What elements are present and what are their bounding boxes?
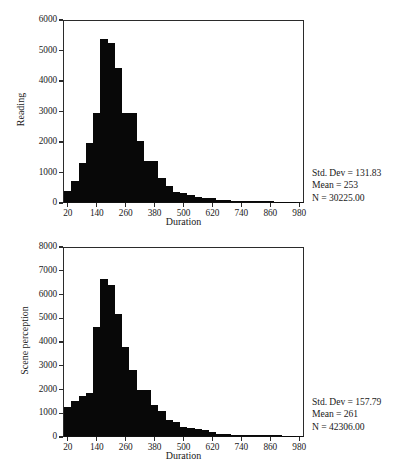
- histogram-bar: [144, 390, 151, 436]
- histogram-bar: [71, 401, 78, 436]
- histogram-bar: [129, 113, 136, 202]
- y-tick-label: 4000: [39, 74, 57, 87]
- histogram-bar: [267, 435, 274, 436]
- x-axis-title-scene: Duration: [63, 450, 304, 461]
- histogram-bar: [224, 200, 231, 202]
- histogram-bar: [64, 407, 71, 436]
- histogram-bar: [202, 430, 209, 436]
- y-tick-label: 5000: [39, 44, 57, 57]
- y-tick-label: 1000: [39, 166, 57, 179]
- histogram-bar: [151, 405, 158, 436]
- histogram-bar: [137, 141, 144, 202]
- statistics-annotation-reading: Std. Dev = 131.83 Mean = 253 N = 30225.0…: [312, 167, 381, 204]
- y-axis-ticks-scene: 010002000300040005000600070008000: [0, 247, 63, 437]
- histogram-bar: [108, 285, 115, 436]
- bar-series-reading: [64, 21, 303, 202]
- histogram-bar: [129, 370, 136, 436]
- histogram-bar: [238, 435, 245, 436]
- y-tick-label: 1000: [39, 406, 57, 419]
- histogram-bar: [216, 200, 223, 202]
- statistics-annotation-scene: Std. Dev = 157.79 Mean = 261 N = 42306.0…: [312, 396, 381, 433]
- histogram-bar: [144, 161, 151, 202]
- histogram-bar: [79, 396, 86, 436]
- histogram-bar: [151, 161, 158, 202]
- histogram-bar: [173, 192, 180, 202]
- histogram-bar: [224, 434, 231, 436]
- histogram-bar: [64, 191, 71, 202]
- mean-text: Mean = 253: [312, 179, 381, 191]
- y-tick-label: 7000: [39, 264, 57, 277]
- sample-size-text: N = 42306.00: [312, 421, 381, 433]
- histogram-bar: [173, 422, 180, 436]
- std-dev-text: Std. Dev = 131.83: [312, 167, 381, 179]
- histogram-bar: [238, 201, 245, 202]
- mean-text: Mean = 261: [312, 408, 381, 420]
- histogram-bar: [93, 327, 100, 436]
- histogram-bar: [253, 201, 260, 202]
- y-tick-label: 8000: [39, 240, 57, 253]
- histogram-bar: [195, 429, 202, 436]
- histogram-bar: [166, 420, 173, 436]
- histogram-bar: [86, 393, 93, 436]
- histogram-bar: [245, 435, 252, 436]
- histogram-bar: [93, 113, 100, 202]
- y-tick-label: 5000: [39, 311, 57, 324]
- histogram-bar: [115, 314, 122, 436]
- histogram-bar: [86, 143, 93, 202]
- histogram-bar: [231, 201, 238, 203]
- y-axis-ticks-reading: 0100020003000400050006000: [0, 20, 63, 203]
- y-tick-label: 3000: [39, 105, 57, 118]
- histogram-bar: [209, 198, 216, 202]
- histogram-bar: [231, 435, 238, 436]
- histogram-bar: [71, 181, 78, 202]
- histogram-figure-reading: Reading 0100020003000400050006000 201402…: [0, 0, 416, 233]
- y-tick-label: 6000: [39, 13, 57, 26]
- histogram-bar: [195, 197, 202, 202]
- histogram-bar: [115, 68, 122, 202]
- histogram-bar: [216, 434, 223, 436]
- histogram-bar: [137, 390, 144, 436]
- y-tick-label: 0: [52, 430, 57, 443]
- histogram-bar: [274, 435, 281, 436]
- histogram-bar: [166, 186, 173, 202]
- histogram-bar: [180, 193, 187, 202]
- plot-area-scene: [63, 247, 304, 437]
- histogram-bar: [260, 201, 267, 202]
- y-tick-label: 3000: [39, 359, 57, 372]
- histogram-bar: [100, 39, 107, 203]
- sample-size-text: N = 30225.00: [312, 192, 381, 204]
- plot-area-reading: [63, 20, 304, 203]
- histogram-bar: [267, 201, 274, 202]
- histogram-bar: [245, 201, 252, 202]
- histogram-bar: [79, 163, 86, 202]
- bar-series-scene: [64, 248, 303, 436]
- y-tick-label: 2000: [39, 383, 57, 396]
- y-tick-label: 6000: [39, 288, 57, 301]
- histogram-bar: [158, 178, 165, 202]
- histogram-bar: [187, 195, 194, 202]
- histogram-bar: [260, 435, 267, 436]
- histogram-bar: [100, 279, 107, 436]
- histogram-bar: [187, 428, 194, 436]
- histogram-figure-scene-perception: Scene perception 01000200030004000500060…: [0, 234, 416, 467]
- histogram-bar: [253, 435, 260, 436]
- histogram-bar: [209, 432, 216, 436]
- y-tick-label: 4000: [39, 335, 57, 348]
- histogram-bar: [108, 43, 115, 202]
- histogram-bar: [202, 198, 209, 202]
- histogram-bar: [180, 427, 187, 436]
- y-tick-label: 2000: [39, 135, 57, 148]
- x-axis-title-reading: Duration: [63, 216, 304, 227]
- y-tick-label: 0: [52, 196, 57, 209]
- histogram-bar: [122, 347, 129, 436]
- histogram-bar: [158, 411, 165, 436]
- std-dev-text: Std. Dev = 157.79: [312, 396, 381, 408]
- histogram-bar: [122, 113, 129, 202]
